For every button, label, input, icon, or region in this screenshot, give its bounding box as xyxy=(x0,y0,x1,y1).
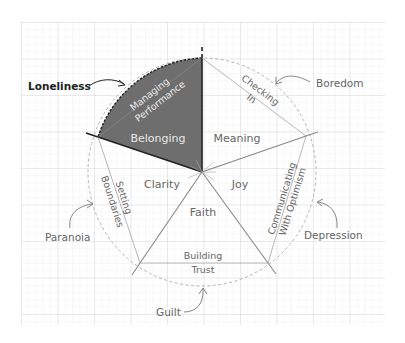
sector-label-faith: Faith xyxy=(190,206,216,219)
svg-text:Boredom: Boredom xyxy=(316,77,364,89)
sector-label-clarity: Clarity xyxy=(144,178,180,191)
svg-text:Loneliness: Loneliness xyxy=(28,80,91,92)
svg-text:Guilt: Guilt xyxy=(156,306,181,318)
svg-text:Paranoia: Paranoia xyxy=(45,231,90,243)
emotional-needs-pentagon-diagram: Belonging Meaning Joy Faith Clarity Mana… xyxy=(0,0,405,343)
svg-text:Trust: Trust xyxy=(190,264,214,275)
svg-text:Depression: Depression xyxy=(304,229,363,241)
sector-label-meaning: Meaning xyxy=(214,132,261,145)
svg-text:Building: Building xyxy=(184,250,223,261)
sector-label-belonging: Belonging xyxy=(130,132,185,145)
sector-label-joy: Joy xyxy=(231,178,249,191)
